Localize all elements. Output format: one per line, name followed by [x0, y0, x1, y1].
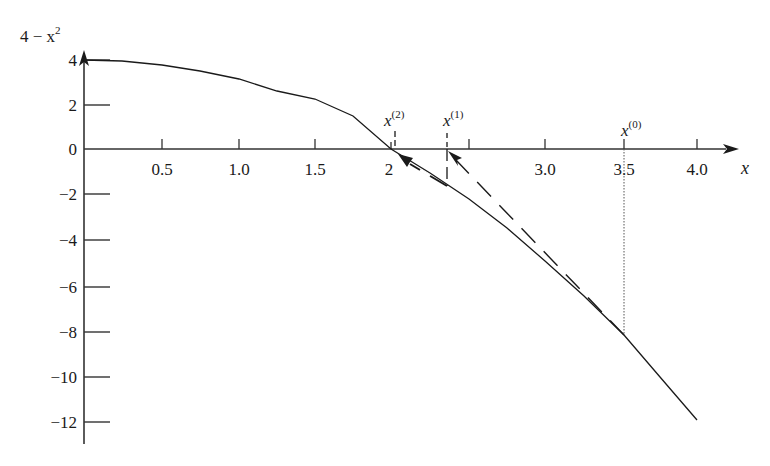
x-tick-label: 4.0: [686, 160, 707, 179]
x-tick-label: 1.0: [228, 160, 249, 179]
x-axis-title: x: [740, 158, 749, 178]
y-tick-label: 0: [69, 140, 78, 159]
y-tick-label: 2: [69, 96, 78, 115]
x-tick-label: 3.0: [534, 160, 555, 179]
y-ticks: [84, 60, 110, 422]
y-tick-label: −4: [59, 231, 78, 250]
x2-label: x(2): [383, 108, 405, 130]
y-tick-label: −8: [59, 323, 77, 342]
x-axis: 0.5 1.0 1.5 2 3.0 3.5 4.0 x: [84, 139, 749, 179]
x0-label: x(0): [620, 118, 642, 140]
newton-method-chart: 4 2 0 −2 −4 −6 −8 −10 −12 4 − x2 0.5 1.0: [0, 0, 770, 466]
y-axis-title: 4 − x2: [20, 24, 61, 46]
y-tick-label: −12: [50, 413, 77, 432]
y-tick-labels: 4 2 0 −2 −4 −6 −8 −10 −12: [50, 51, 77, 432]
tangent-x1-dash: [420, 170, 430, 176]
x1-label: x(1): [442, 108, 464, 130]
y-tick-label: 4: [69, 51, 78, 70]
x-tick-label: 1.5: [304, 160, 325, 179]
iteration-labels: x(2) x(1) x(0): [383, 108, 642, 140]
y-tick-label: −10: [50, 368, 77, 387]
x-ticks: [162, 139, 697, 149]
x-tick-label: 0.5: [151, 160, 172, 179]
tangent-x0: [456, 160, 624, 335]
y-axis: 4 2 0 −2 −4 −6 −8 −10 −12 4 − x2: [20, 24, 110, 444]
x-tick-label: 2: [385, 160, 394, 179]
y-tick-label: −6: [59, 278, 77, 297]
y-tick-label: −2: [59, 185, 77, 204]
